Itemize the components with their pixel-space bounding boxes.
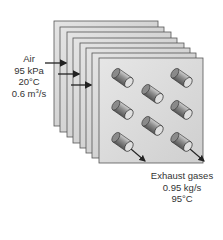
air-pressure: 95 kPa [2,65,56,77]
air-label: Air 95 kPa 20°C 0.6 m3/s [2,53,56,99]
air-name: Air [2,53,56,65]
exhaust-name: Exhaust gases [142,170,222,182]
exhaust-mass-flow: 0.95 kg/s [142,182,222,194]
exhaust-temperature: 95°C [142,193,222,205]
air-flow-rate: 0.6 m3/s [2,88,56,100]
exhaust-label: Exhaust gases 0.95 kg/s 95°C [142,170,222,205]
air-temperature: 20°C [2,76,56,88]
